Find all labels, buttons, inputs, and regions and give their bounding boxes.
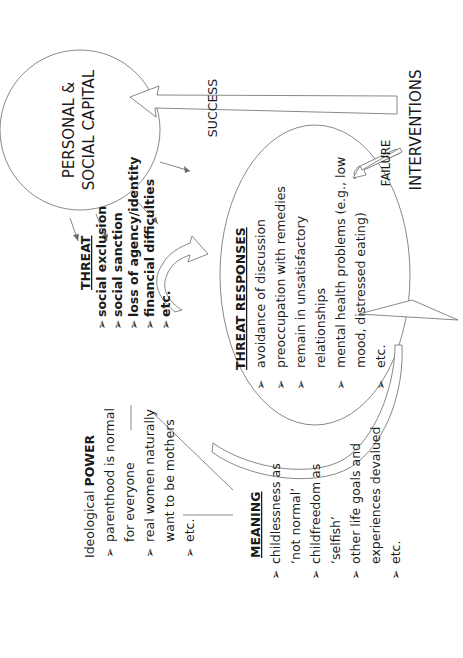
- capital-label-line1: PERSONAL &: [60, 81, 78, 178]
- bullet-icon: ➢: [273, 380, 288, 390]
- threat-item: financial difficulties: [142, 179, 157, 317]
- bullet-icon: ➢: [158, 320, 173, 330]
- threat-response-item: mental health problems (e.g., low: [333, 157, 348, 368]
- threat-response-item: etc.: [373, 345, 388, 368]
- failure-arrow-shape: [353, 148, 402, 178]
- power-item: want to be mothers: [162, 419, 177, 542]
- bullet-icon: ➢: [373, 380, 388, 390]
- threat-response-item: preoccupation with remedies: [273, 186, 288, 368]
- bullet-icon: ➢: [110, 320, 125, 330]
- power-heading-bold: POWER: [82, 434, 97, 486]
- power-item: parenthood is normal: [102, 408, 117, 542]
- threat-item: loss of agency/identity: [126, 157, 141, 317]
- bullet-icon: ➢: [388, 570, 403, 580]
- meaning-item: ‘selfish’: [328, 516, 343, 564]
- bullet-icon: ➢: [126, 320, 141, 330]
- meaning-item: other life goals and: [348, 443, 363, 564]
- bullet-icon: ➢: [142, 548, 157, 558]
- threat-heading: THREAT: [78, 235, 93, 290]
- power-item: real women naturally: [142, 409, 157, 542]
- loop-arrow-head: [359, 300, 458, 320]
- capital-label-line2: SOCIAL CAPITAL: [80, 69, 98, 190]
- bullet-icon: ➢: [102, 548, 117, 558]
- threat-item: social sanction: [110, 212, 125, 317]
- meaning-item: etc.: [388, 541, 403, 564]
- threat-responses-block: THREAT RESPONSES ➢avoidance of discussio…: [233, 157, 388, 390]
- bullet-icon: ➢: [268, 570, 283, 580]
- success-arrow: [130, 86, 397, 117]
- meaning-item: childlessness as: [268, 463, 283, 564]
- bullet-icon: ➢: [182, 548, 197, 558]
- bullet-icon: ➢: [142, 320, 157, 330]
- threat-item: etc.: [158, 290, 173, 317]
- power-heading-normal: Ideological: [82, 487, 97, 558]
- threat-response-diagram: PERSONAL & SOCIAL CAPITAL SUCCESS INTERV…: [0, 0, 463, 658]
- meaning-block: MEANING ➢childlessness as‘not normal’➢ch…: [248, 427, 403, 580]
- failure-label: FAILURE: [379, 140, 393, 186]
- threat-response-item: relationships: [313, 288, 328, 368]
- threat-response-item: mood, distressed eating): [353, 212, 368, 368]
- threat-response-item: avoidance of discussion: [253, 219, 268, 368]
- bullet-icon: ➢: [253, 380, 268, 390]
- bullet-icon: ➢: [94, 320, 109, 330]
- bullet-icon: ➢: [348, 570, 363, 580]
- bullet-icon: ➢: [293, 380, 308, 390]
- threat-responses-heading: THREAT RESPONSES: [233, 227, 248, 370]
- bullet-icon: ➢: [308, 570, 323, 580]
- power-item: etc.: [182, 519, 197, 542]
- meaning-heading: MEANING: [248, 492, 263, 559]
- power-item: for everyone: [122, 462, 137, 542]
- power-heading: Ideological POWER: [82, 434, 97, 558]
- interventions-label: INTERVENTIONS: [407, 70, 425, 191]
- power-block: Ideological POWER ➢parenthood is normalf…: [82, 408, 197, 558]
- threat-item: social exclusion: [94, 206, 109, 317]
- success-label: SUCCESS: [205, 79, 220, 137]
- threat-response-item: remain in unsatisfactory: [293, 215, 308, 368]
- meaning-item: ‘not normal’: [288, 488, 303, 564]
- bullet-icon: ➢: [333, 380, 348, 390]
- meaning-item: experiences devalued: [368, 427, 383, 564]
- meaning-item: childfreedom as: [308, 464, 323, 564]
